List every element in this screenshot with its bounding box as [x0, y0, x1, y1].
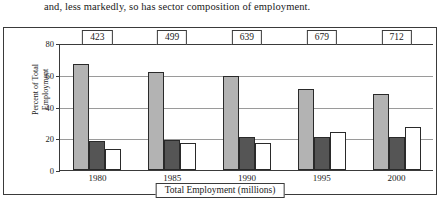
bar-secondary[interactable] [239, 137, 255, 170]
bar-primary[interactable] [373, 94, 389, 170]
y-axis-title: Percent of Total Employment [31, 42, 50, 138]
x-axis-tick-label: 1995 [313, 173, 331, 183]
bar-secondary[interactable] [164, 140, 180, 170]
bar-secondary[interactable] [314, 137, 330, 170]
bars [359, 44, 434, 170]
bars [60, 44, 135, 170]
bar-tertiary[interactable] [105, 149, 121, 170]
bar-secondary[interactable] [89, 141, 105, 170]
bar-group: 6791995 [284, 44, 359, 170]
bar-group: 6391990 [210, 44, 285, 170]
bar-tertiary[interactable] [405, 127, 421, 170]
y-axis-tick-label: 80 [34, 39, 54, 49]
bar-tertiary[interactable] [330, 132, 346, 170]
bars [210, 44, 285, 170]
y-axis-tick-label: 0 [34, 166, 54, 176]
total-employment-value: 679 [307, 30, 337, 45]
bars [284, 44, 359, 170]
bar-group: 4991985 [135, 44, 210, 170]
plot-inner: 0204060804231980499198563919906791995712… [60, 44, 433, 170]
y-axis-tick-label: 60 [34, 71, 54, 81]
bar-primary[interactable] [298, 89, 314, 170]
bar-secondary[interactable] [389, 137, 405, 170]
bar-primary[interactable] [73, 64, 89, 170]
x-axis-title: Total Employment (millions) [156, 183, 285, 198]
bar-primary[interactable] [223, 76, 239, 170]
x-axis-tick-label: 2000 [388, 173, 406, 183]
x-axis-tick-label: 1980 [88, 173, 106, 183]
plot-area: 0204060804231980499198563919906791995712… [59, 44, 433, 171]
bar-tertiary[interactable] [180, 143, 196, 170]
bar-primary[interactable] [148, 72, 164, 170]
total-employment-value: 423 [82, 30, 112, 45]
x-axis-tick-label: 1990 [238, 173, 256, 183]
bar-group: 7122000 [359, 44, 434, 170]
y-axis-tick-label: 40 [34, 103, 54, 113]
total-employment-value: 499 [157, 30, 187, 45]
total-employment-value: 639 [232, 30, 262, 45]
y-axis-tick-mark [56, 171, 60, 172]
x-axis-tick-label: 1985 [163, 173, 181, 183]
figure-caption: and, less markedly, so has sector compos… [44, 1, 310, 12]
bar-group: 4231980 [60, 44, 135, 170]
bars [135, 44, 210, 170]
figure-box: Percent of Total Employment 020406080423… [3, 27, 437, 195]
bar-tertiary[interactable] [255, 143, 271, 170]
y-axis-tick-label: 20 [34, 134, 54, 144]
total-employment-value: 712 [381, 30, 411, 45]
